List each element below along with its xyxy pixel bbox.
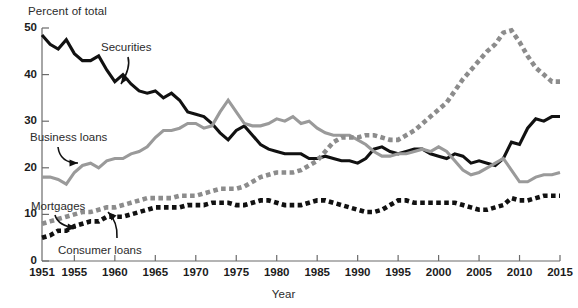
y-axis-title: Percent of total (28, 5, 107, 17)
y-tick-label: 40 (15, 68, 37, 80)
x-tick-label: 1960 (95, 266, 135, 278)
series-label-mortgages: Mortgages (31, 200, 85, 212)
x-tick-label: 2005 (459, 266, 499, 278)
x-tick-label: 1995 (378, 266, 418, 278)
y-tick-label: 0 (15, 254, 37, 266)
x-tick-label: 1985 (297, 266, 337, 278)
x-tick-label: 2000 (419, 266, 459, 278)
y-tick-label: 30 (15, 114, 37, 126)
x-tick-label: 1975 (216, 266, 256, 278)
x-tick-label: 1965 (135, 266, 175, 278)
x-tick-label: 1955 (54, 266, 94, 278)
series-label-consumer-loans: Consumer loans (58, 244, 142, 256)
x-tick-label: 1990 (338, 266, 378, 278)
series-line-mortgages (42, 30, 560, 223)
annotation-arrow (58, 147, 78, 163)
x-tick-label: 1970 (176, 266, 216, 278)
series-label-securities: Securities (101, 41, 152, 53)
x-tick-label: 2015 (540, 266, 578, 278)
series-line-consumer-loans (42, 196, 560, 238)
annotation-arrowhead (70, 159, 79, 166)
series-label-business-loans: Business loans (30, 131, 107, 143)
x-tick-label: 1980 (257, 266, 297, 278)
x-axis-title: Year (0, 288, 567, 300)
x-tick-label: 2010 (500, 266, 540, 278)
y-tick-label: 20 (15, 161, 37, 173)
y-tick-label: 50 (15, 21, 37, 33)
